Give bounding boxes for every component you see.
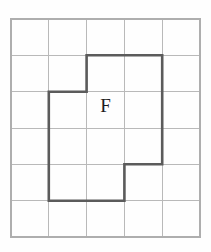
figure-background xyxy=(0,0,211,252)
grid-figure-svg: F xyxy=(0,0,211,252)
shape-label-f: F xyxy=(100,95,111,116)
figure-container: F xyxy=(0,0,211,252)
